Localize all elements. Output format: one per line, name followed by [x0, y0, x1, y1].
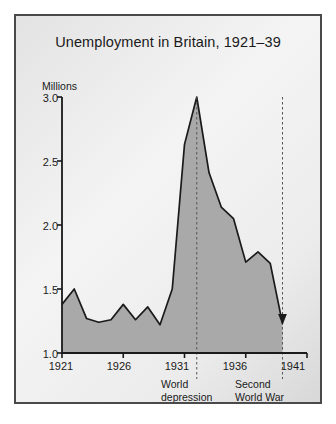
area-fill [62, 97, 283, 353]
area-series-group [62, 97, 283, 353]
chart-plot-area [16, 16, 322, 404]
chart-figure: Unemployment in Britain, 1921–39 Million… [14, 14, 322, 404]
